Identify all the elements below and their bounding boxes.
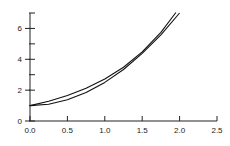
x-tick-label: 0.5 xyxy=(62,126,74,135)
y-tick-label: 2 xyxy=(18,86,23,95)
x-tick-label: 2.0 xyxy=(174,126,186,135)
y-tick-label: 0 xyxy=(18,117,23,126)
line-chart: 0.00.51.01.52.02.50246 xyxy=(0,0,230,146)
y-tick-label: 4 xyxy=(18,55,23,64)
x-tick-label: 1.5 xyxy=(137,126,149,135)
y-tick-label: 6 xyxy=(18,24,23,33)
tick-labels: 0.00.51.01.52.02.50246 xyxy=(18,24,224,135)
x-tick-label: 0.0 xyxy=(24,126,36,135)
x-tick-label: 2.5 xyxy=(211,126,223,135)
series-line-curve-1 xyxy=(30,13,176,106)
data-lines xyxy=(30,13,180,106)
axes xyxy=(25,13,217,121)
x-tick-label: 1.0 xyxy=(99,126,111,135)
series-line-curve-2 xyxy=(30,13,180,106)
